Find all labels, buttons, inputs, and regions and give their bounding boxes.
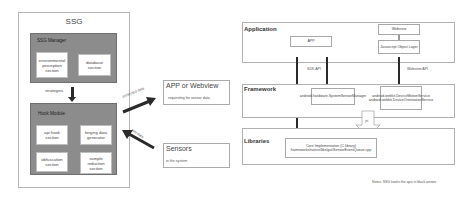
app-or-webview-title: APP or Webview — [166, 82, 218, 89]
environmental-perception-section: environmental perception section — [36, 52, 68, 78]
obfuscation-section: obfuscation section — [36, 152, 68, 172]
application-title: Application — [244, 26, 277, 32]
ssg-title: SSG — [18, 17, 130, 26]
raw-data-arrow — [120, 128, 160, 152]
webview-api-label: Webview API — [407, 67, 428, 71]
sample-reduction-section: sample reduction section — [80, 152, 112, 174]
webview-api-arrow-shaft — [398, 57, 400, 86]
sdk-api-arrow-shaft — [326, 57, 328, 86]
jni-label: jni — [365, 119, 368, 123]
webview-node: Webview — [378, 24, 420, 35]
framework-title: Framework — [244, 86, 276, 92]
webkit-services-node: android.webkit.DeviceMotionService andro… — [380, 86, 422, 110]
protected-data-arrow — [120, 95, 160, 115]
javascript-object-layer-node: Javascript Object Layer — [378, 40, 420, 54]
app-node: APP — [290, 36, 332, 47]
system-sensor-manager-node: android.hardware.SystemSensorManager — [311, 88, 355, 105]
app-or-webview-subtitle: requesting for sensor data — [168, 96, 210, 100]
sensors-title: Sensors — [166, 145, 192, 152]
ssg-manager-title: SSG Manager — [37, 38, 66, 43]
hook-module-title: Hook Module — [38, 111, 65, 116]
sensors-subtitle: in the system — [166, 159, 187, 163]
strategies-arrow-head — [68, 97, 76, 102]
footnote: Notes: SSG hooks the apis in black arrow… — [372, 180, 436, 184]
forging-data-generator: forging data generator — [80, 125, 112, 145]
core-implementation-node: Core Implementation (C library) framewor… — [285, 138, 377, 158]
strategies-label: strategies — [45, 88, 63, 93]
sdk-api-label: SDK API — [307, 67, 321, 71]
libraries-title: Libraries — [244, 138, 269, 144]
api-hook-section: api hook section — [36, 125, 68, 145]
database-section: database section — [78, 54, 111, 76]
